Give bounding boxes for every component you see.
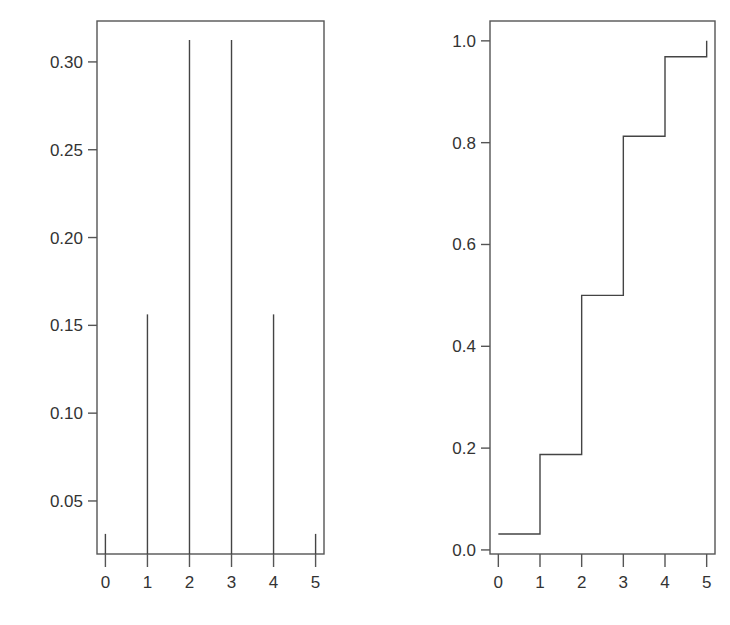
cdf-chart: 0.00.20.40.60.81.0012345 <box>452 21 715 592</box>
y-tick-label: 0.30 <box>50 53 83 72</box>
y-tick-label: 0.8 <box>452 134 476 153</box>
x-tick-label: 1 <box>535 573 544 592</box>
y-tick-label: 0.25 <box>50 141 83 160</box>
y-tick-label: 1.0 <box>452 32 476 51</box>
pmf-chart: 0.050.100.150.200.250.30012345 <box>50 21 324 592</box>
y-tick-label: 0.2 <box>452 439 476 458</box>
cdf-step-line <box>498 41 706 534</box>
x-tick-label: 5 <box>311 573 320 592</box>
x-tick-label: 0 <box>494 573 503 592</box>
x-tick-label: 4 <box>660 573 669 592</box>
y-tick-label: 0.20 <box>50 229 83 248</box>
x-tick-label: 0 <box>101 573 110 592</box>
x-tick-label: 5 <box>702 573 711 592</box>
x-tick-label: 2 <box>185 573 194 592</box>
x-tick-label: 4 <box>269 573 278 592</box>
y-tick-label: 0.15 <box>50 316 83 335</box>
x-tick-label: 1 <box>143 573 152 592</box>
x-tick-label: 3 <box>619 573 628 592</box>
y-tick-label: 0.0 <box>452 541 476 560</box>
y-tick-label: 0.4 <box>452 337 476 356</box>
x-tick-label: 2 <box>577 573 586 592</box>
figure: 0.050.100.150.200.250.30012345 0.00.20.4… <box>0 0 730 625</box>
y-tick-label: 0.6 <box>452 235 476 254</box>
x-tick-label: 3 <box>227 573 236 592</box>
plot-frame <box>97 21 324 554</box>
y-tick-label: 0.10 <box>50 404 83 423</box>
plot-frame <box>490 21 715 554</box>
y-tick-label: 0.05 <box>50 492 83 511</box>
